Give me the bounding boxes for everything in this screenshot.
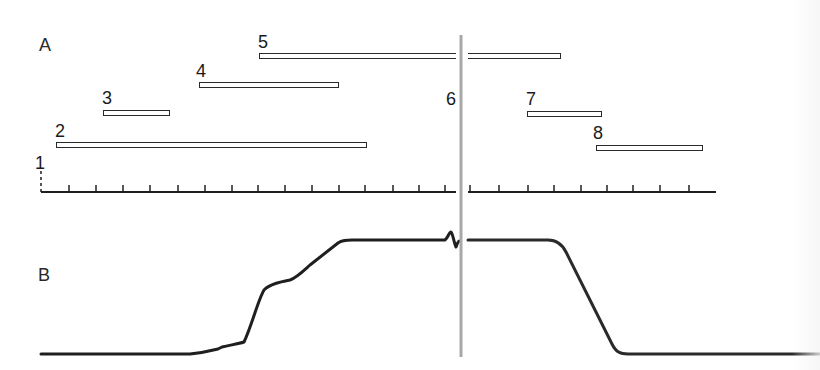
profile-curve-right	[468, 240, 820, 354]
diagram-svg	[0, 0, 820, 370]
axis-ticks	[69, 185, 689, 192]
profile-curve-left	[41, 232, 459, 354]
diagram-figure: A B 2 3 4 5 7 8 6 1	[0, 0, 820, 370]
page-edge-shadow	[792, 0, 820, 370]
